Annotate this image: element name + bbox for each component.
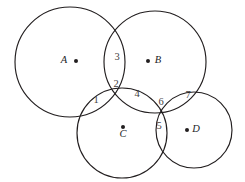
set-point-b-dot [146, 59, 150, 63]
set-circles-group [15, 7, 232, 178]
venn-diagram-canvas: A B C D 1 2 3 4 5 6 7 [0, 0, 245, 182]
region-number-1: 1 [93, 94, 98, 105]
set-label-a: A [60, 54, 68, 65]
set-label-b: B [155, 54, 162, 65]
set-circle-a [15, 7, 125, 117]
region-number-3: 3 [114, 51, 119, 62]
set-point-a-dot [74, 59, 78, 63]
set-label-c: C [119, 128, 127, 139]
region-number-7: 7 [185, 89, 190, 100]
region-number-2: 2 [113, 78, 118, 89]
set-markers-group: A B C D [60, 54, 200, 139]
venn-diagram-figure: A B C D 1 2 3 4 5 6 7 [0, 0, 245, 182]
set-point-d-dot [185, 128, 189, 132]
region-number-4: 4 [134, 88, 140, 99]
set-label-d: D [191, 123, 200, 134]
region-number-5: 5 [156, 120, 161, 131]
region-number-6: 6 [158, 96, 163, 107]
region-numbers-group: 1 2 3 4 5 6 7 [93, 51, 190, 131]
